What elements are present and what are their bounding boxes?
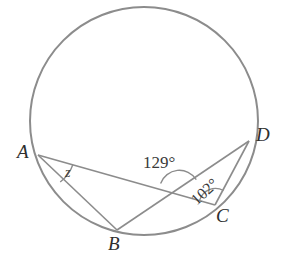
angle-label-z: z: [65, 166, 70, 180]
segment-cd: [215, 141, 249, 205]
point-label-c: C: [216, 206, 229, 225]
geometry-figure: A B C D z 129° 102°: [0, 0, 294, 262]
angle-arc-129: [161, 170, 197, 183]
segment-bd: [117, 141, 249, 230]
geometry-canvas: [0, 0, 294, 262]
point-label-b: B: [108, 234, 120, 253]
circle-outline: [30, 7, 258, 235]
angle-label-129: 129°: [143, 154, 175, 171]
point-label-a: A: [17, 142, 29, 161]
point-label-d: D: [256, 125, 270, 144]
